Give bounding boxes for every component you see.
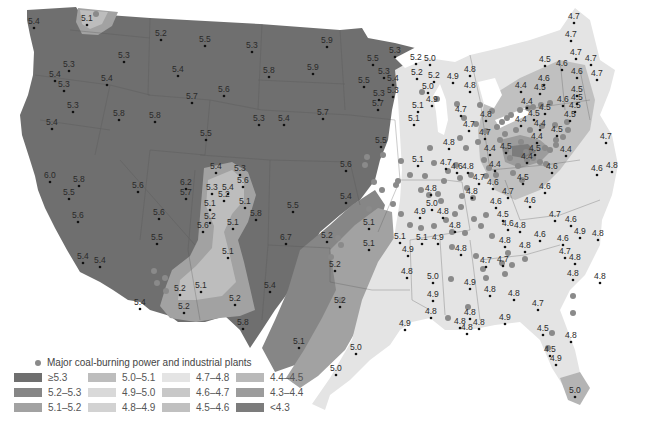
station-dot: [429, 64, 432, 67]
station-dot: [555, 364, 558, 367]
station: 4.8: [569, 252, 581, 265]
coal-plant-marker: [513, 127, 519, 133]
station: 5.8: [237, 317, 249, 330]
station-dot: [430, 194, 433, 197]
station-ph-label: 4.5: [539, 54, 551, 64]
station-dot: [524, 251, 527, 254]
legend-class-label: 5.0–5.1: [122, 372, 155, 383]
station: 5.5: [287, 200, 299, 213]
station: 4.4: [484, 143, 496, 156]
station-dot: [505, 152, 508, 155]
station: 4.8: [443, 137, 455, 150]
station: 5.5: [151, 232, 163, 245]
station-dot: [258, 124, 261, 127]
station-ph-label: 4.7: [440, 157, 452, 167]
station-dot: [242, 186, 245, 189]
station-ph-label: 5.7: [186, 91, 198, 101]
legend-class-label: 4.6–4.7: [196, 387, 229, 398]
station-ph-label: 4.8: [449, 220, 461, 230]
station-dot: [507, 229, 510, 232]
coal-plant-marker: [441, 178, 447, 184]
station: 5.6: [218, 84, 230, 97]
station-ph-label: 5.3: [387, 85, 399, 95]
station-dot: [380, 146, 383, 149]
station-dot: [345, 202, 348, 205]
station-dot: [579, 237, 582, 240]
station-ph-label: 6.2: [180, 177, 192, 187]
station: 4.8: [606, 160, 618, 173]
station: 4.7: [502, 186, 514, 199]
station-ph-label: 4.7: [568, 11, 580, 21]
station-ph-label: 5.8: [237, 317, 249, 327]
station-dot: [520, 91, 523, 94]
station-ph-label: 5.4: [264, 280, 276, 290]
station-dot: [160, 39, 163, 42]
station: 5.4: [340, 191, 352, 204]
legend-class: 4.5–4.6: [162, 401, 236, 413]
station-ph-label: 5.3: [246, 40, 258, 50]
station-dot: [227, 257, 230, 260]
coal-plant-marker: [502, 271, 508, 277]
station: 5.9: [307, 62, 319, 75]
coal-plant-marker: [515, 163, 521, 169]
coal-plant-marker: [452, 211, 458, 217]
station-ph-label: 4.4: [484, 143, 496, 153]
station-ph-label: 4.8: [514, 220, 526, 230]
station-dot: [283, 124, 286, 127]
station-ph-label: 5.1: [222, 246, 234, 256]
station: 5.1: [412, 154, 424, 167]
station-ph-label: 5.0: [422, 81, 434, 91]
station: 4.9: [574, 226, 586, 239]
station-dot: [576, 103, 579, 106]
station-dot: [326, 46, 329, 49]
station-ph-label: 4.8: [473, 317, 485, 327]
station: 4.8: [567, 268, 579, 281]
station-dot: [51, 128, 54, 131]
station-dot: [334, 270, 337, 273]
station-dot: [442, 217, 445, 220]
legend-swatch: [14, 373, 42, 382]
station: 5.0: [427, 271, 439, 284]
coal-plant-marker: [338, 242, 344, 248]
station-dot: [191, 102, 194, 105]
station-ph-label: 4.8: [565, 330, 577, 340]
legend-swatch: [236, 373, 264, 382]
station-ph-label: 4.6: [524, 195, 536, 205]
station-ph-label: 6.0: [44, 170, 56, 180]
station-ph-label: 5.4: [28, 16, 40, 26]
station-ph-label: 4.6: [546, 161, 558, 171]
station-ph-label: 4.7: [497, 254, 509, 264]
station-labels-layer: 5.45.15.35.35.45.35.45.35.45.85.85.25.55…: [28, 11, 618, 398]
coal-plant-marker: [477, 102, 483, 108]
coal-plant-marker: [483, 212, 489, 218]
station-dot: [605, 142, 608, 145]
station-ph-label: 4.8: [484, 284, 496, 294]
station: 5.3: [206, 182, 218, 195]
station-dot: [539, 93, 542, 96]
station-dot: [513, 299, 516, 302]
coal-plant-marker: [517, 107, 523, 113]
legend-class-label: 4.3–4.4: [270, 387, 303, 398]
station-dot: [33, 27, 36, 30]
station-ph-label: 5.5: [375, 135, 387, 145]
station: 5.1: [293, 336, 305, 349]
station-ph-label: 4.6: [539, 181, 551, 191]
coal-plant-marker: [473, 253, 479, 259]
station-dot: [99, 266, 102, 269]
station: 5.4: [77, 251, 89, 264]
station-ph-label: 4.8: [443, 137, 455, 147]
station-ph-label: 5.1: [239, 196, 251, 206]
station-dot: [223, 95, 226, 98]
coal-plant-marker: [407, 222, 413, 228]
station-ph-label: 5.4: [94, 255, 106, 265]
station-ph-label: 5.3: [206, 182, 218, 192]
station: 5.7: [186, 91, 198, 104]
station: 5.1: [204, 198, 216, 211]
station-dot: [471, 197, 474, 200]
station-dot: [597, 239, 600, 242]
station-dot: [575, 58, 578, 61]
station-dot: [599, 282, 602, 285]
station-dot: [561, 69, 564, 72]
station: 4.7: [532, 298, 544, 311]
legend-swatch: [236, 403, 264, 412]
